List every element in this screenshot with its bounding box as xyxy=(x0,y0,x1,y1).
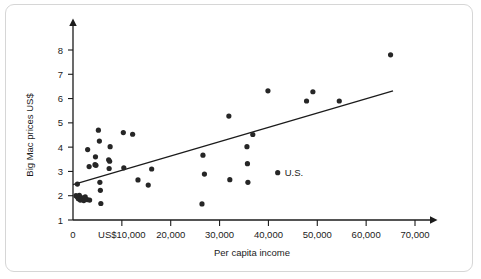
data-point xyxy=(310,89,315,94)
data-point xyxy=(93,163,98,168)
x-axis-title: Per capita income xyxy=(214,247,290,258)
data-point xyxy=(75,181,80,186)
x-tick-label: 50,000 xyxy=(303,229,332,240)
x-tick-label: 70,000 xyxy=(400,229,429,240)
data-point xyxy=(108,144,113,149)
figure-frame: 12345678 Big Mac prices US$ 0US$10,00020… xyxy=(5,4,473,272)
data-point xyxy=(96,128,101,133)
data-point xyxy=(337,98,342,103)
data-point xyxy=(388,52,393,57)
y-tick-label: 1 xyxy=(58,215,63,226)
data-point xyxy=(226,113,231,118)
data-point xyxy=(202,172,207,177)
data-point xyxy=(245,180,250,185)
data-point xyxy=(87,197,92,202)
data-point xyxy=(146,182,151,187)
y-axis-title: Big Mac prices US$ xyxy=(24,93,35,177)
data-point xyxy=(200,153,205,158)
data-point xyxy=(97,180,102,185)
data-point xyxy=(265,88,270,93)
data-point xyxy=(244,144,249,149)
scatter-plot: 12345678 Big Mac prices US$ 0US$10,00020… xyxy=(6,5,474,273)
y-tick-label: 5 xyxy=(58,117,63,128)
data-point xyxy=(199,201,204,206)
annotation-group: U.S. xyxy=(285,167,303,178)
x-axis: 0US$10,00020,00030,00040,00050,00060,000… xyxy=(70,220,431,258)
data-point xyxy=(107,159,112,164)
x-tick-label: 60,000 xyxy=(352,229,381,240)
data-point xyxy=(85,147,90,152)
y-tick-label: 6 xyxy=(58,93,63,104)
data-point xyxy=(227,177,232,182)
data-point xyxy=(130,132,135,137)
y-tick-label: 8 xyxy=(58,45,63,56)
trend-line xyxy=(73,91,393,185)
y-tick-group: 12345678 xyxy=(58,45,73,226)
y-tick-label: 7 xyxy=(58,69,63,80)
data-point xyxy=(135,177,140,182)
data-point xyxy=(250,132,255,137)
y-tick-label: 4 xyxy=(58,142,63,153)
data-point xyxy=(245,161,250,166)
data-point xyxy=(98,201,103,206)
annotation-label-us: U.S. xyxy=(285,167,303,178)
trend-line-segment xyxy=(73,91,393,185)
data-point-group xyxy=(73,52,393,206)
data-point xyxy=(107,166,112,171)
x-tick-label: 20,000 xyxy=(156,229,185,240)
data-point xyxy=(149,166,154,171)
data-point xyxy=(275,170,280,175)
x-tick-label: 0 xyxy=(70,229,75,240)
x-tick-label: 40,000 xyxy=(254,229,283,240)
data-point xyxy=(98,188,103,193)
x-tick-group: 0US$10,00020,00030,00040,00050,00060,000… xyxy=(70,220,429,240)
x-tick-label: 30,000 xyxy=(205,229,234,240)
y-tick-label: 2 xyxy=(58,190,63,201)
data-point xyxy=(93,154,98,159)
data-point xyxy=(121,130,126,135)
x-tick-label: US$10,000 xyxy=(98,229,146,240)
y-axis: 12345678 Big Mac prices US$ xyxy=(24,25,73,226)
data-point xyxy=(304,98,309,103)
data-point xyxy=(121,165,126,170)
data-point xyxy=(87,164,92,169)
y-tick-label: 3 xyxy=(58,166,63,177)
data-point xyxy=(97,138,102,143)
